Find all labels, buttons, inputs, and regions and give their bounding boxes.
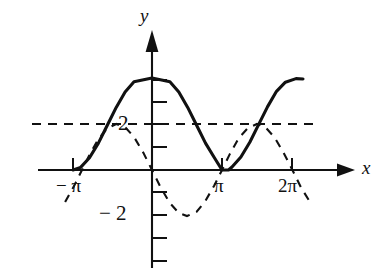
graph-canvas: [0, 0, 379, 272]
solid-curve: [73, 78, 303, 170]
x-axis-arrowhead: [337, 164, 355, 177]
math-graph-figure: y x 2 − 2 − π π 2π: [0, 0, 379, 272]
x-axis-ticks: [73, 158, 292, 170]
y-tick-label-minus-2: − 2: [99, 203, 127, 224]
x-tick-label-minus-pi: − π: [56, 176, 81, 195]
x-tick-label-2pi: 2π: [278, 176, 297, 195]
y-axis-label: y: [140, 6, 148, 25]
x-axis-label: x: [362, 158, 370, 177]
x-tick-label-pi: π: [214, 176, 224, 195]
y-axis-arrowhead: [146, 30, 159, 52]
y-tick-label-2: 2: [118, 113, 128, 134]
